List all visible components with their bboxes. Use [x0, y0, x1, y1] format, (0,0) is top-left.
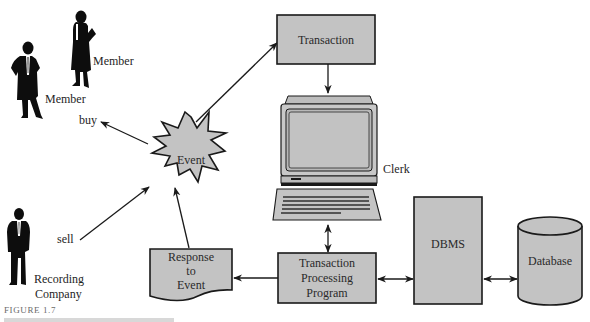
member-label-2: Member	[45, 92, 86, 106]
information-system-diagram: Member Member Recording Company buy sell…	[0, 0, 590, 322]
buy-label: buy	[79, 113, 97, 127]
tpp-label-line2: Processing	[301, 271, 353, 285]
tpp-label-line3: Program	[306, 286, 348, 300]
member-woman-icon	[71, 11, 96, 89]
buy-arrow	[101, 122, 148, 144]
recording-company-icon	[7, 208, 30, 285]
event-label: Event	[177, 153, 206, 167]
database-label: Database	[528, 254, 572, 268]
clerk-label: Clerk	[383, 162, 410, 176]
member-man-icon	[11, 42, 43, 120]
event-starburst-shape	[152, 112, 226, 182]
recording-company-label-line2: Company	[35, 287, 82, 301]
response-label-line2: to	[186, 264, 195, 278]
figure-caption: FIGURE 1.7	[4, 305, 56, 315]
recording-company-label-line1: Recording	[34, 272, 84, 286]
event-to-transaction-arrow	[196, 43, 277, 122]
sell-arrow	[80, 187, 149, 240]
member-label-1: Member	[93, 54, 134, 68]
clerk-computer-icon	[273, 96, 381, 220]
dbms-label: DBMS	[431, 237, 465, 251]
truncated-caption-text	[4, 318, 174, 322]
response-to-event-arrow	[175, 188, 189, 248]
sell-label: sell	[57, 232, 74, 246]
response-label-line1: Response	[168, 250, 214, 264]
response-label-line3: Event	[177, 278, 206, 292]
tpp-label-line1: Transaction	[299, 256, 355, 270]
transaction-label: Transaction	[298, 33, 354, 47]
